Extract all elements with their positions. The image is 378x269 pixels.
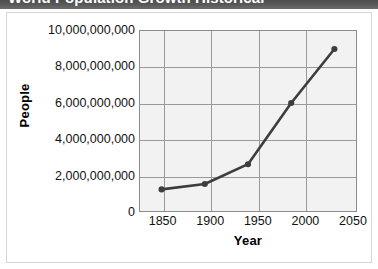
plot-area: [139, 30, 357, 212]
x-axis-label: Year: [139, 233, 357, 248]
y-tick-label: 4,000,000,000: [15, 133, 135, 146]
data-point: [245, 161, 251, 167]
y-tick-label: 0: [15, 206, 135, 219]
x-tick-label: 2050: [323, 215, 378, 228]
data-point: [331, 46, 337, 52]
y-tick-label: 6,000,000,000: [15, 97, 135, 110]
data-series-line: [140, 31, 356, 211]
data-point: [202, 181, 208, 187]
data-point-markers: [159, 46, 338, 193]
data-point: [159, 186, 165, 192]
data-point: [288, 100, 294, 106]
y-tick-label: 8,000,000,000: [15, 60, 135, 73]
y-tick-label: 10,000,000,000: [15, 24, 135, 37]
x-axis-ticks: 1850 1900 1950 2000 2050: [139, 215, 357, 233]
chart-region: 10,000,000,000 8,000,000,000 6,000,000,0…: [0, 0, 378, 269]
chart-figure: World Population Growth Historical 10,00…: [0, 0, 378, 269]
y-tick-label: 2,000,000,000: [15, 170, 135, 183]
y-axis-label: People: [17, 71, 32, 141]
